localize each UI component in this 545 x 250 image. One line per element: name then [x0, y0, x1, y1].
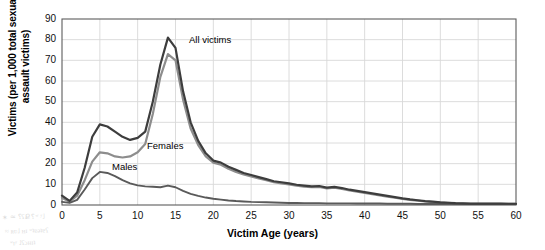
annotation-females: Females — [147, 140, 183, 151]
x-axis-label: Victim Age (years) — [0, 227, 545, 239]
annotation-males: Males — [112, 161, 137, 172]
plot-area — [0, 0, 545, 250]
scan-artifact-3: ʷɪʸ ˩ʕɔʜɪʇ — [10, 239, 36, 248]
annotation-all-victims: All victims — [189, 34, 231, 45]
scan-artifact-2: ≈ ʀʋ˩ ʜɪ ʷʇɐǝʇɐʕ — [5, 226, 49, 235]
scan-artifact-1: ✶ ≃ ⸮ʕՔ ⸮ʷ ʸ˩ — [2, 212, 45, 221]
chart-figure: Victims (per 1,000 total sexual assault … — [0, 0, 545, 250]
